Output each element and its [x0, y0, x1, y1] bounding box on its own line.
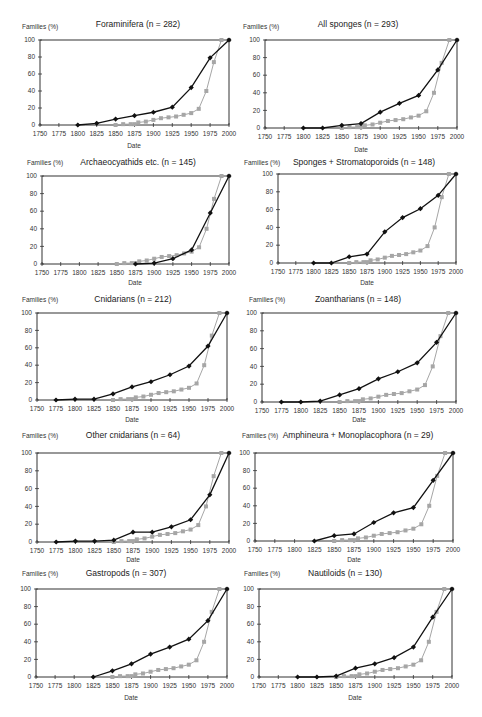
square-marker [404, 664, 408, 668]
y-tick-label: 0 [269, 259, 273, 266]
square-marker [118, 674, 122, 678]
diamond-marker [205, 618, 210, 623]
square-marker [150, 535, 154, 539]
x-tick-label: 1875 [126, 547, 141, 554]
square-marker [126, 674, 130, 678]
square-marker [332, 539, 336, 543]
diamond-marker [129, 384, 134, 389]
x-tick-label: 1850 [110, 269, 125, 276]
y-tick-label: 60 [247, 620, 255, 627]
square-marker [435, 610, 439, 614]
square-marker [197, 107, 201, 111]
y-tick-label: 80 [25, 467, 33, 474]
diamond-marker [347, 254, 352, 259]
square-marker [380, 532, 384, 536]
y-tick-label: 80 [243, 467, 251, 474]
square-marker [450, 587, 454, 591]
diamond-marker [167, 644, 172, 649]
square-marker [371, 122, 375, 126]
square-marker [400, 391, 404, 395]
square-marker [401, 117, 405, 121]
y-tick-label: 40 [25, 361, 33, 368]
square-marker [181, 529, 185, 533]
square-marker [129, 122, 133, 126]
square-marker [227, 38, 231, 42]
x-tick-label: 1950 [406, 682, 421, 689]
diamond-marker [436, 193, 441, 198]
square-marker [210, 610, 214, 614]
diamond-marker [450, 450, 455, 455]
x-tick-label: 2000 [220, 405, 235, 412]
diamond-marker [148, 652, 153, 657]
diamond-marker [226, 37, 231, 42]
square-marker [378, 121, 382, 125]
square-marker [196, 523, 200, 527]
group-series-line [78, 40, 229, 125]
square-marker [353, 399, 357, 403]
x-tick-label: 2000 [222, 269, 237, 276]
square-marker [122, 261, 126, 265]
x-tick-label: 1950 [184, 269, 199, 276]
diamond-marker [358, 121, 363, 126]
square-marker [212, 197, 216, 201]
diamond-marker [169, 524, 174, 529]
chart-title: Cnidarians (n = 212) [33, 294, 233, 304]
x-tick-label: 1800 [67, 682, 82, 689]
x-tick-label: 2000 [446, 546, 461, 553]
x-tick-label: 1850 [342, 268, 357, 275]
square-marker [376, 395, 380, 399]
diamond-marker [167, 372, 172, 377]
group-series-line [314, 174, 456, 263]
x-tick-label: 1900 [378, 268, 393, 275]
diamond-marker [188, 517, 193, 522]
square-marker [356, 536, 360, 540]
y-tick-label: 100 [21, 309, 32, 316]
diamond-marker [186, 637, 191, 642]
x-tick-label: 1925 [386, 546, 401, 553]
diamond-marker [91, 397, 96, 402]
x-tick-label: 1950 [182, 682, 197, 689]
x-tick-label: 1975 [203, 130, 218, 137]
square-marker [426, 244, 430, 248]
x-tick-label: 1925 [166, 269, 181, 276]
square-marker [115, 262, 119, 266]
line-chart: 0204060801001750177518001825185018751900… [0, 0, 482, 717]
diamond-marker [207, 492, 212, 497]
plot-frame [265, 40, 457, 128]
y-tick-label: 40 [243, 502, 251, 509]
y-tick-label: 20 [266, 241, 274, 248]
diamond-marker [392, 655, 397, 660]
diamond-marker [339, 123, 344, 128]
x-tick-label: 1800 [68, 405, 83, 412]
diamond-marker [205, 343, 210, 348]
square-marker [197, 245, 201, 249]
square-marker [217, 311, 221, 315]
square-marker [352, 538, 356, 542]
square-marker [158, 533, 162, 537]
square-marker [204, 89, 208, 93]
square-marker [119, 539, 123, 543]
square-marker [160, 255, 164, 259]
square-marker [210, 334, 214, 338]
diamond-marker [91, 674, 96, 679]
square-marker [189, 528, 193, 532]
diamond-marker [312, 538, 317, 543]
x-tick-label: 1800 [306, 268, 321, 275]
square-marker [225, 587, 229, 591]
square-marker [135, 537, 139, 541]
diamond-marker [75, 122, 80, 127]
square-marker [455, 38, 459, 42]
diamond-marker [73, 539, 78, 544]
square-marker [365, 260, 369, 264]
diamond-marker [150, 530, 155, 535]
square-marker [172, 389, 176, 393]
x-tick-label: 1775 [52, 130, 67, 137]
square-marker [157, 391, 161, 395]
diamond-marker [434, 340, 439, 345]
plot-frame [37, 313, 227, 400]
y-tick-label: 20 [24, 656, 32, 663]
y-tick-label: 60 [266, 206, 274, 213]
y-tick-label: 20 [25, 379, 33, 386]
square-marker [354, 260, 358, 264]
square-marker [174, 115, 178, 119]
